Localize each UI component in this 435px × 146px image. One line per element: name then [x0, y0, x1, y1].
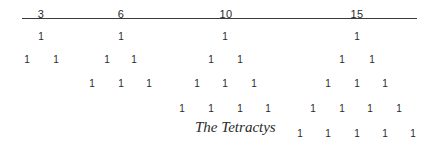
unit-dot: 1: [131, 55, 137, 65]
unit-dot: 1: [396, 104, 402, 114]
unit-dot: 1: [325, 79, 331, 89]
unit-dot: 1: [179, 104, 185, 114]
unit-dot: 1: [53, 55, 59, 65]
unit-dot: 1: [222, 79, 228, 89]
unit-dot: 1: [354, 32, 360, 42]
unit-dot: 1: [194, 79, 200, 89]
unit-dot: 1: [38, 32, 44, 42]
unit-dot: 1: [146, 79, 152, 89]
unit-dot: 1: [354, 129, 360, 139]
unit-dot: 1: [237, 55, 243, 65]
unit-dot: 1: [237, 104, 243, 114]
unit-dot: 1: [208, 104, 214, 114]
unit-dot: 1: [208, 55, 214, 65]
unit-dot: 1: [297, 129, 303, 139]
unit-dot: 1: [382, 129, 388, 139]
unit-dot: 1: [367, 104, 373, 114]
unit-dot: 1: [24, 55, 30, 65]
label-3: 3: [38, 9, 45, 20]
unit-dot: 1: [325, 129, 331, 139]
label-10: 10: [219, 9, 232, 20]
unit-dot: 1: [89, 79, 95, 89]
unit-dot: 1: [118, 32, 124, 42]
unit-dot: 1: [410, 129, 416, 139]
label-6: 6: [118, 9, 125, 20]
label-15: 15: [350, 9, 363, 20]
unit-dot: 1: [265, 104, 271, 114]
caption: The Tetractys: [195, 120, 276, 135]
unit-dot: 1: [339, 55, 345, 65]
unit-dot: 1: [118, 79, 124, 89]
unit-dot: 1: [251, 79, 257, 89]
unit-dot: 1: [222, 32, 228, 42]
unit-dot: 1: [310, 104, 316, 114]
unit-dot: 1: [382, 79, 388, 89]
unit-dot: 1: [339, 104, 345, 114]
unit-dot: 1: [354, 79, 360, 89]
unit-dot: 1: [104, 55, 110, 65]
unit-dot: 1: [369, 55, 375, 65]
